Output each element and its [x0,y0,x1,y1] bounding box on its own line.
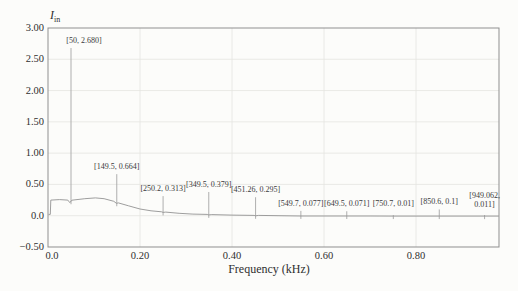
peak-label: [750.7, 0.01] [373,200,414,209]
y-tick-label: 0.0 [0,211,44,221]
peak-label: [349.5, 0.379] [186,181,231,190]
x-tick-label: 0.0 [45,251,58,261]
y-axis-label: Iin [50,8,60,24]
x-tick-label: 0.60 [315,251,333,261]
x-tick-label: 0.40 [223,251,241,261]
y-tick-label: 1.00 [0,148,44,158]
peak-label: [649.5, 0.071] [324,200,369,209]
y-tick-label: 1.50 [0,117,44,127]
peak-label: [850.6, 0.1] [421,199,458,208]
y-axis-label-subscript: in [54,15,60,24]
peak-label: [149.5, 0.664] [94,164,139,173]
y-tick-label: −0.50 [0,242,44,252]
y-tick-label: 2.50 [0,54,44,64]
spectrum-figure: Iin Frequency (kHz) 3.002.502.001.501.00… [0,0,518,291]
plot-frame [48,28,499,247]
peak-label: [50, 2.680] [66,37,101,46]
x-tick-label: 0.20 [131,251,149,261]
peak-label: [549.7, 0.077] [278,200,323,209]
peak-label: [451.26, 0.295] [231,187,280,196]
y-tick-label: 0.50 [0,179,44,189]
y-tick-label: 3.00 [0,23,44,33]
y-tick-label: 2.00 [0,86,44,96]
x-axis-label: Frequency (kHz) [228,262,310,277]
peak-label: [250.2, 0.313] [140,186,185,195]
peak-label: [949.062, 0.011] [469,192,500,209]
x-tick-label: 0.80 [407,251,425,261]
